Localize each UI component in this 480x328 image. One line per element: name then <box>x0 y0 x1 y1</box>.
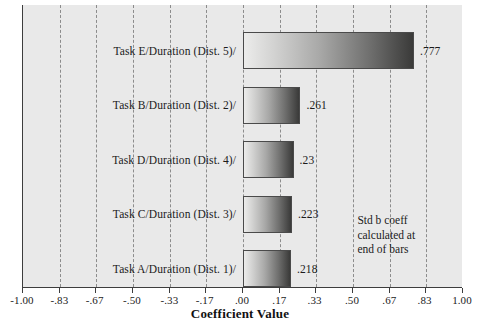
x-tick-mark <box>315 288 316 293</box>
x-tick-label: -.33 <box>160 294 178 306</box>
annotation-line-0: Std b coeff <box>357 213 415 228</box>
x-tick-mark <box>169 288 170 293</box>
bar-category-label: Task B/Duration (Dist. 2)/ <box>113 99 236 111</box>
x-tick-mark <box>59 288 60 293</box>
x-tick-mark <box>22 288 23 293</box>
bar-value-label: .218 <box>297 263 318 275</box>
x-tick-label: -.67 <box>86 294 104 306</box>
bar-value-label: .777 <box>420 45 441 57</box>
x-tick-mark <box>132 288 133 293</box>
x-tick-mark <box>425 288 426 293</box>
bar-category-label: Task D/Duration (Dist. 4)/ <box>112 154 236 166</box>
bar-row: Task B/Duration (Dist. 2)/.261 <box>23 87 462 124</box>
bar-category-label: Task A/Duration (Dist. 1)/ <box>113 263 236 275</box>
bar-category-label: Task E/Duration (Dist. 5)/ <box>113 45 236 57</box>
x-tick-mark <box>205 288 206 293</box>
bar-value-label: .23 <box>300 154 315 166</box>
x-axis-title: Coefficient Value <box>0 306 480 322</box>
plot-area: Task E/Duration (Dist. 5)/.777Task B/Dur… <box>22 5 462 288</box>
x-tick-mark <box>389 288 390 293</box>
x-tick-label: .50 <box>345 294 359 306</box>
x-tick-label: -.17 <box>196 294 214 306</box>
annotation-line-2: end of bars <box>357 242 415 257</box>
x-tick-label: -1.00 <box>10 294 33 306</box>
x-tick-mark <box>242 288 243 293</box>
x-tick-label: .67 <box>382 294 396 306</box>
x-tick-label: .33 <box>308 294 322 306</box>
bar[interactable] <box>243 141 294 178</box>
bar[interactable] <box>243 32 414 69</box>
bar-category-label: Task C/Duration (Dist. 3)/ <box>113 208 236 220</box>
annotation-line-1: calculated at <box>357 228 415 243</box>
x-tick-mark <box>462 288 463 293</box>
x-tick-label: -.50 <box>123 294 141 306</box>
bar-row: Task E/Duration (Dist. 5)/.777 <box>23 32 462 69</box>
x-tick-label: .83 <box>418 294 432 306</box>
x-tick-mark <box>352 288 353 293</box>
chart-annotation: Std b coeffcalculated atend of bars <box>357 213 415 257</box>
chart-title <box>0 0 480 1</box>
x-tick-label: -.83 <box>50 294 68 306</box>
horizontal-bar-chart: Task E/Duration (Dist. 5)/.777Task B/Dur… <box>0 0 480 328</box>
x-tick-label: .00 <box>235 294 249 306</box>
x-tick-mark <box>279 288 280 293</box>
bar-row: Task D/Duration (Dist. 4)/.23 <box>23 141 462 178</box>
bar[interactable] <box>243 196 292 233</box>
x-tick-label: 1.00 <box>452 294 472 306</box>
bar-value-label: .261 <box>306 99 327 111</box>
bar[interactable] <box>243 87 300 124</box>
x-tick-label: .17 <box>272 294 286 306</box>
bar[interactable] <box>243 250 291 287</box>
bar-value-label: .223 <box>298 208 319 220</box>
x-tick-mark <box>95 288 96 293</box>
